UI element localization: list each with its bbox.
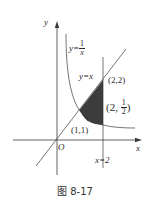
x-axis-arrow-icon (135, 138, 142, 142)
hyperbola-label-lhs: y= (69, 43, 79, 53)
point-2-half-close: ) (127, 101, 131, 113)
hyperbola-frac-den: x (80, 49, 84, 57)
hyperbola-label: y=1x (69, 40, 85, 57)
point-2-half-label: (2, 12) (106, 99, 130, 116)
origin-label: O (58, 143, 65, 152)
figure-caption: 图 8-17 (0, 183, 150, 198)
shaded-region (80, 80, 104, 125)
point-2-2-label: (2,2) (108, 76, 125, 85)
line-x-equals-2-label: x=2 (95, 156, 110, 165)
y-axis-arrow-icon (55, 21, 59, 28)
point-1-1-label: (1,1) (71, 126, 88, 135)
hyperbola-fraction: 1x (79, 40, 85, 57)
line-y-equals-x-label: y=x (79, 72, 93, 81)
y-axis-label: y (44, 18, 48, 27)
point-2-half-den: 2 (122, 108, 126, 116)
point-2-half-open: (2, (106, 101, 121, 113)
x-axis-label: x (136, 144, 140, 153)
